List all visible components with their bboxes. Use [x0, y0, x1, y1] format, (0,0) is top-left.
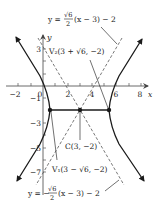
vertex-v1-dot: [48, 108, 52, 112]
x-tick-label: 2: [66, 90, 71, 99]
svg-text:y = −: y = −: [27, 189, 50, 198]
leader-asymptote-top: [101, 27, 117, 44]
svg-text:(x − 3) − 2: (x − 3) − 2: [74, 15, 116, 24]
right-branch-upper: [109, 39, 142, 110]
center-c-dot: [78, 108, 82, 112]
hyperbola-diagram: −2 0 2 4 6 8 x 3 −1 −3 −5 −7 y y = √6 2 …: [0, 0, 156, 210]
x-tick-label: 8: [138, 90, 143, 99]
y-tick-label: −1: [30, 94, 41, 103]
leader-v1: [51, 112, 57, 160]
center-label: C(3, −2): [65, 142, 97, 151]
y-axis-label: y: [46, 33, 52, 42]
svg-text:y =: y =: [47, 15, 61, 24]
x-tick-label: −2: [9, 90, 20, 99]
leader-v2: [90, 60, 108, 108]
svg-text:√6: √6: [64, 11, 72, 19]
svg-text:√6: √6: [48, 185, 56, 193]
leader-asymptote-bottom: [105, 180, 119, 191]
svg-text:2: 2: [50, 194, 54, 202]
y-tick-label: −5: [30, 144, 41, 153]
y-tick-label: −7: [30, 168, 41, 177]
x-axis: [6, 83, 148, 86]
asymptote-top-equation: y = √6 2 (x − 3) − 2: [47, 11, 116, 28]
vertex-v2-label: V₂(3 + √6, −2): [48, 47, 105, 56]
vertex-v1-label: V₁(3 − √6, −2): [51, 165, 108, 174]
asymptote-bottom-equation: y = − √6 2 (x − 3) − 2: [27, 185, 100, 202]
svg-text:2: 2: [66, 20, 70, 28]
x-axis-label: x: [148, 90, 153, 99]
right-branch-lower: [109, 110, 144, 181]
y-axis: [43, 35, 46, 195]
vertex-v2-dot: [107, 108, 111, 112]
x-tick-label: 4: [90, 90, 95, 99]
y-tick-label: 3: [36, 45, 41, 54]
y-tick-label: −3: [30, 119, 41, 128]
svg-text:(x − 3) − 2: (x − 3) − 2: [58, 189, 100, 198]
x-tick-label: 6: [114, 90, 119, 99]
